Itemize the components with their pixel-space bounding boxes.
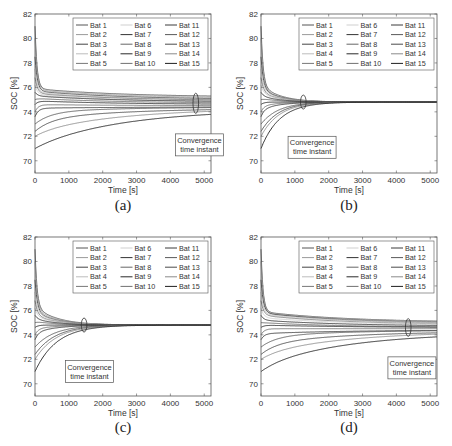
y-tick-label: 80 — [23, 34, 32, 43]
y-tick-label: 80 — [23, 257, 32, 266]
convergence-annotation: Convergencetime instant — [388, 319, 436, 379]
legend-entry: Bat 2 — [90, 253, 107, 262]
legend-entry: Bat 8 — [135, 263, 152, 272]
legend-entry: Bat 15 — [179, 59, 200, 68]
legend-entry: Bat 3 — [90, 40, 107, 49]
legend-entry: Bat 5 — [316, 59, 333, 68]
y-tick-label: 78 — [249, 59, 258, 68]
chart-a: 01000200030004000500070727476788082Time … — [0, 0, 226, 223]
legend-entry: Bat 12 — [405, 253, 426, 262]
y-tick-label: 72 — [249, 355, 258, 364]
legend-entry: Bat 1 — [90, 244, 107, 253]
y-tick-label: 70 — [23, 380, 32, 389]
y-tick-label: 76 — [23, 306, 32, 315]
legend-entry: Bat 11 — [179, 21, 199, 30]
legend-entry: Bat 13 — [405, 40, 426, 49]
series-line-6 — [35, 308, 211, 325]
x-tick-label: 5000 — [195, 176, 213, 185]
legend-entry: Bat 1 — [316, 244, 333, 253]
annotation-line-1: Convergence — [390, 359, 435, 368]
y-tick-label: 78 — [23, 282, 32, 291]
chart-c: 01000200030004000500070727476788082Time … — [0, 223, 226, 446]
y-tick-label: 72 — [23, 355, 32, 364]
y-axis-label: SOC [%] — [9, 77, 19, 110]
legend-entry: Bat 14 — [179, 272, 200, 281]
x-tick-label: 1000 — [60, 399, 78, 408]
x-axis-label: Time [s] — [108, 185, 138, 195]
series-line-7 — [261, 92, 437, 102]
series-line-14 — [35, 111, 211, 136]
legend-entry: Bat 3 — [90, 263, 107, 272]
annotation-line-1: Convergence — [177, 136, 222, 145]
caption-a: (a) — [93, 197, 153, 214]
legend-entry: Bat 6 — [135, 244, 152, 253]
y-tick-label: 74 — [249, 108, 258, 117]
legend-entry: Bat 4 — [90, 49, 107, 58]
y-axis-label: SOC [%] — [235, 77, 245, 110]
legend-entry: Bat 1 — [90, 21, 107, 30]
legend-entry: Bat 7 — [361, 253, 378, 262]
legend-entry: Bat 5 — [90, 59, 107, 68]
legend: Bat 1Bat 2Bat 3Bat 4Bat 5Bat 6Bat 7Bat 8… — [299, 18, 434, 70]
y-tick-label: 70 — [23, 157, 32, 166]
x-tick-label: 4000 — [161, 399, 179, 408]
legend-entry: Bat 2 — [316, 253, 333, 262]
legend-entry: Bat 7 — [361, 30, 378, 39]
legend: Bat 1Bat 2Bat 3Bat 4Bat 5Bat 6Bat 7Bat 8… — [299, 241, 434, 293]
legend-entry: Bat 13 — [179, 263, 200, 272]
legend-entry: Bat 10 — [135, 282, 156, 291]
series-line-13 — [261, 333, 437, 355]
x-tick-label: 2000 — [94, 399, 112, 408]
y-tick-label: 78 — [249, 282, 258, 291]
legend-entry: Bat 2 — [316, 30, 333, 39]
y-tick-label: 80 — [249, 257, 258, 266]
legend-entry: Bat 2 — [90, 30, 107, 39]
x-tick-label: 0 — [259, 176, 264, 185]
y-tick-label: 80 — [249, 34, 258, 43]
series-line-15 — [35, 325, 211, 371]
legend-entry: Bat 12 — [179, 253, 200, 262]
x-tick-label: 4000 — [387, 399, 405, 408]
legend-entry: Bat 1 — [316, 21, 333, 30]
legend-entry: Bat 4 — [316, 272, 333, 281]
legend-entry: Bat 10 — [361, 59, 382, 68]
caption-d: (d) — [319, 419, 379, 436]
x-tick-label: 4000 — [387, 176, 405, 185]
x-tick-label: 1000 — [286, 176, 304, 185]
chart-d: 01000200030004000500070727476788082Time … — [226, 223, 452, 446]
legend-entry: Bat 5 — [316, 282, 333, 291]
caption-b: (b) — [319, 197, 379, 214]
legend-entry: Bat 14 — [179, 49, 200, 58]
legend-entry: Bat 15 — [179, 282, 200, 291]
y-tick-label: 70 — [249, 380, 258, 389]
legend-entry: Bat 15 — [405, 282, 426, 291]
legend-entry: Bat 3 — [316, 40, 333, 49]
x-tick-label: 4000 — [161, 176, 179, 185]
y-tick-label: 74 — [23, 331, 32, 340]
y-tick-label: 72 — [23, 132, 32, 141]
legend-entry: Bat 4 — [316, 49, 333, 58]
panel-d: 01000200030004000500070727476788082Time … — [226, 223, 452, 446]
legend-entry: Bat 9 — [361, 272, 378, 281]
series-line-12 — [35, 325, 211, 347]
y-tick-label: 76 — [23, 83, 32, 92]
legend-entry: Bat 6 — [361, 21, 378, 30]
x-axis-label: Time [s] — [108, 408, 138, 418]
series-line-14 — [35, 325, 211, 359]
legend-entry: Bat 10 — [135, 59, 156, 68]
caption-c: (c) — [93, 419, 153, 436]
series-line-11 — [35, 325, 211, 340]
legend-entry: Bat 4 — [90, 272, 107, 281]
legend-entry: Bat 6 — [135, 21, 152, 30]
annotation-line-2: time instant — [393, 368, 432, 377]
panel-a: 01000200030004000500070727476788082Time … — [0, 0, 226, 223]
legend-entry: Bat 9 — [135, 49, 152, 58]
x-tick-label: 5000 — [195, 399, 213, 408]
legend-entry: Bat 7 — [135, 253, 152, 262]
legend-entry: Bat 13 — [179, 40, 200, 49]
x-tick-label: 0 — [33, 176, 38, 185]
y-tick-label: 76 — [249, 83, 258, 92]
y-tick-label: 74 — [23, 108, 32, 117]
legend-entry: Bat 3 — [316, 263, 333, 272]
legend-entry: Bat 9 — [361, 49, 378, 58]
